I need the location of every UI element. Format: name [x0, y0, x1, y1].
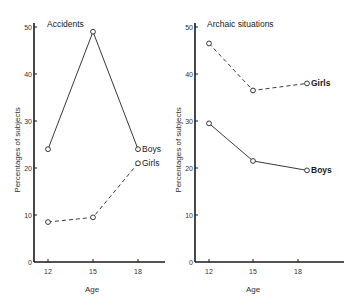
y-axis-label: Percentages of subjects — [13, 107, 22, 192]
y-tick-label: 30 — [185, 118, 193, 125]
y-tick-label: 50 — [24, 24, 32, 31]
series-label-boys: Boys — [311, 165, 332, 175]
y-tick-label: 30 — [24, 118, 32, 125]
y-tick-label: 20 — [24, 165, 32, 172]
y-tick-label: 40 — [185, 71, 193, 78]
series-label-boys: Boys — [142, 144, 161, 154]
series-label-girls: Girls — [142, 158, 159, 168]
series-label-girls: Girls — [311, 78, 331, 88]
data-point-boys — [251, 159, 256, 164]
y-tick-label: 20 — [185, 165, 193, 172]
x-tick-label: 12 — [205, 268, 213, 275]
x-tick-label: 18 — [294, 268, 302, 275]
x-tick-label: 18 — [134, 268, 142, 275]
y-tick-label: 0 — [28, 259, 32, 266]
y-tick-label: 10 — [24, 212, 32, 219]
data-point-girls — [207, 41, 212, 46]
x-axis-label: Age — [246, 285, 261, 294]
data-point-girls — [91, 215, 96, 220]
y-tick-label: 50 — [185, 24, 193, 31]
data-point-boys — [305, 168, 310, 173]
panel-archaic-situations: Archaic situations Percentages of subjec… — [174, 19, 344, 294]
chart-title: Accidents — [47, 19, 84, 29]
figure: Accidents Percentages of subjects Age 01… — [0, 0, 356, 308]
data-point-girls — [136, 161, 141, 166]
data-point-girls — [251, 88, 256, 93]
y-tick-label: 0 — [189, 259, 193, 266]
y-tick-label: 10 — [185, 212, 193, 219]
series-line-boys — [209, 123, 307, 170]
x-tick-label: 15 — [89, 268, 97, 275]
y-tick-label: 40 — [24, 71, 32, 78]
x-axis-label: Age — [85, 285, 100, 294]
panel-accidents: Accidents Percentages of subjects Age 01… — [13, 19, 165, 294]
series-line-boys — [48, 32, 138, 150]
y-axis-label: Percentages of subjects — [174, 107, 183, 192]
series-line-girls — [209, 43, 307, 90]
data-point-girls — [46, 220, 51, 225]
x-tick-label: 12 — [44, 268, 52, 275]
data-point-boys — [136, 147, 141, 152]
data-point-boys — [91, 29, 96, 34]
data-point-boys — [46, 147, 51, 152]
data-point-girls — [305, 81, 310, 86]
series-line-girls — [48, 163, 138, 222]
x-tick-label: 15 — [249, 268, 257, 275]
data-point-boys — [207, 121, 212, 126]
chart-title: Archaic situations — [207, 19, 274, 29]
